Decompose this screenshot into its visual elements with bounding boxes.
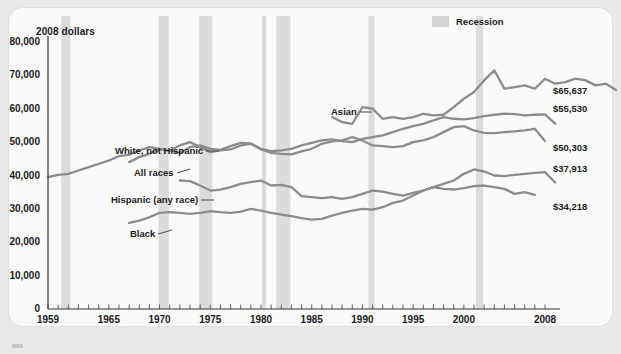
end-value-white: $55,530 [553,103,587,114]
footnote-marker [12,344,23,348]
series-label-all-races: All races [134,167,174,178]
end-value-all-races: $50,303 [553,142,587,153]
axis-lines-group [48,36,560,309]
chart-root: 2008 dollars 80,00070,00060,00050,00040,… [0,0,621,354]
recession-band [159,16,169,309]
y-tick-label: 60,000 [0,103,40,114]
recession-swatch-icon [432,16,449,27]
end-value-black: $34,218 [553,201,587,212]
y-tick-label: 50,000 [0,136,40,147]
series-line-hispanic-any-race [180,169,555,198]
recession-band [61,16,70,309]
x-tick-label: 1975 [188,314,232,325]
end-value-hispanic: $37,913 [553,163,587,174]
legend: Recession [432,16,504,27]
x-tick-label: 1959 [26,314,70,325]
y-tick-label: 40,000 [0,170,40,181]
x-tick-label: 1995 [391,314,435,325]
recession-band [476,16,483,309]
y-tick-label: 10,000 [0,270,40,281]
series-label-black: Black [130,228,155,239]
x-tick-label: 1970 [138,314,182,325]
x-tick-label: 1980 [239,314,283,325]
y-tick-label: 20,000 [0,236,40,247]
x-tick-label: 2000 [442,314,486,325]
series-label-hispanic: Hispanic (any race) [111,194,198,205]
recession-band [276,16,290,309]
x-tick-label: 1965 [87,314,131,325]
axis-ticks-group [48,305,545,310]
y-tick-label: 70,000 [0,69,40,80]
x-tick-label: 1990 [340,314,384,325]
x-tick-label: 2008 [523,314,567,325]
y-tick-label: 80,000 [0,36,40,47]
recession-band [262,16,266,309]
series-label-asian: Asian [331,106,357,117]
recession-band [369,16,375,309]
y-tick-label: 0 [0,303,40,314]
series-label-white: White, not Hispanic [115,145,203,156]
chart-plot-area [0,0,621,354]
recession-bands-group [61,16,483,309]
legend-label-recession: Recession [456,16,504,27]
x-tick-label: 1985 [290,314,334,325]
y-tick-label: 30,000 [0,203,40,214]
y-axis-title: 2008 dollars [36,26,95,37]
recession-band [199,16,212,309]
end-value-asian: $65,637 [553,85,587,96]
